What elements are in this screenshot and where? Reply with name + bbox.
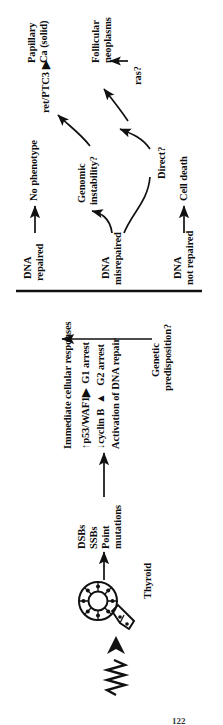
result-genomic-line1: Genomic — [76, 163, 88, 203]
outcome-notrepaired-line2: not repaired — [184, 231, 196, 285]
outcome-repaired-line1: DNA — [22, 257, 34, 279]
result-genomic-line2: instability? — [88, 156, 100, 205]
responses-row-p53: ↑p53/WAF1▶ G1 arrest — [80, 342, 92, 449]
tumor-follicular-line2: neoplasms — [102, 17, 114, 63]
arrow-to-ras — [104, 89, 128, 121]
result-cell-death: Cell death — [178, 156, 190, 201]
arrow-direct-up — [120, 129, 150, 149]
tumor-follicular-line1: Follicular — [90, 20, 102, 63]
radiation-waveform — [107, 660, 125, 695]
oncogene-ras: ras? — [132, 66, 144, 85]
rotated-figure-wrapper: Thyroid DSBs SSBs Point mutations Immedi… — [0, 0, 223, 725]
outcome-notrepaired-line1: DNA — [172, 257, 184, 279]
outcome-misrepaired-line1: DNA — [100, 257, 112, 279]
radiation-arrowhead — [107, 636, 125, 654]
damage-mutations: mutations — [112, 505, 124, 549]
tumor-papillary-line2: Ca (solid) — [38, 21, 50, 63]
arrow-genomic-instability — [92, 211, 112, 233]
responses-heading: Immediate cellular responses — [62, 322, 74, 449]
outcome-repaired-line2: repaired — [34, 244, 46, 281]
oncogene-ret-ptc3: ret/PTC3 ▶ — [40, 62, 52, 113]
figure-canvas: Thyroid DSBs SSBs Point mutations Immedi… — [0, 0, 223, 725]
responses-row-repair: Activation of DNA repair — [110, 338, 122, 449]
result-no-phenotype: No phenotype — [28, 140, 40, 201]
damage-dsbs: DSBs — [76, 525, 88, 549]
damage-point: Point — [100, 526, 112, 549]
arrow-to-retptc3 — [58, 115, 90, 146]
responses-row-cyclinb: ↓cyclin B ▲ G2 arrest — [95, 344, 107, 449]
damage-ssbs: SSBs — [88, 527, 100, 549]
thyroid-follicle-icon — [72, 577, 138, 633]
thyroid-label: Thyroid — [142, 563, 154, 599]
predisposition-line1: Genetic — [150, 343, 162, 377]
predisposition-line2: predisposition? — [162, 324, 174, 391]
result-direct: Direct? — [156, 147, 168, 179]
outcome-misrepaired-line2: misrepaired — [112, 232, 124, 285]
arrow-direct-stem — [124, 177, 150, 233]
tumor-papillary-line1: Papillary — [26, 22, 38, 63]
page-number: 122 — [172, 716, 186, 725]
